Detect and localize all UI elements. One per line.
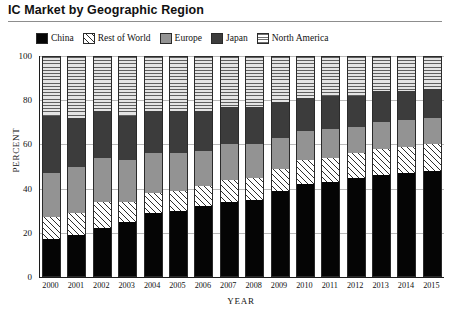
bar-column[interactable] [271,56,290,277]
bar-column[interactable] [169,56,188,277]
x-axis-tick: 2006 [193,280,212,292]
bar-segment [423,118,442,145]
x-axis-title: YEAR [39,296,443,306]
bar-segment [169,153,188,191]
x-axis-tick: 2000 [41,280,60,292]
bar-segment [397,173,416,277]
x-axis-tick: 2007 [219,280,238,292]
legend-item-label: Rest of World [98,33,151,44]
legend-item: Rest of World [83,33,151,44]
bar-column[interactable] [245,56,264,277]
bar-segment [397,147,416,174]
legend-item-label: Japan [226,33,248,44]
bar-segment [423,56,442,89]
bar-segment [321,158,340,182]
title-divider [8,21,442,22]
bar-segment [423,144,442,171]
x-axis-tick: 2002 [92,280,111,292]
x-axis-tick: 2004 [143,280,162,292]
bar-column[interactable] [423,56,442,277]
bar-segment [144,56,163,111]
bar-segment [93,56,112,111]
legend-item-label: North America [272,33,329,44]
bar-segment [397,91,416,120]
legend-item: China [36,33,74,44]
bar-column[interactable] [397,56,416,277]
bar-segment [93,202,112,229]
bar-segment [372,122,391,149]
bar-segment [194,56,213,111]
bar-column[interactable] [144,56,163,277]
bar-segment [347,56,366,96]
bar-column[interactable] [347,56,366,277]
y-axis-tick: 40 [23,184,32,193]
legend-item-label: China [51,33,74,44]
x-axis-tick-labels: 2000200120022003200420052006200720082009… [39,280,443,292]
bar-segment [271,138,290,169]
plot-area [39,56,444,278]
bar-segment [397,120,416,147]
bar-segment [144,193,163,213]
bar-segment [220,202,239,277]
legend-item: Europe [160,33,202,44]
bar-column[interactable] [372,56,391,277]
bar-segment [93,228,112,277]
bar-segment [220,144,239,179]
bar-column[interactable] [321,56,340,277]
chart-legend: ChinaRest of WorldEuropeJapanNorth Ameri… [36,31,328,45]
bar-segment [271,102,290,137]
bar-segment [169,111,188,153]
y-axis-tick: 20 [23,228,32,237]
x-axis-tick: 2012 [346,280,365,292]
x-axis-tick: 2008 [244,280,263,292]
bar-segment [118,222,137,277]
bar-segment [321,56,340,96]
bar-segment [194,151,213,186]
bar-segment [220,107,239,145]
x-axis-tick: 2014 [396,280,415,292]
bar-segment [347,178,366,277]
page-title: IC Market by Geographic Region [8,2,443,18]
diagonal-hatch-swatch [83,33,95,44]
bar-segment [67,56,86,118]
medium-gray-swatch [160,33,172,44]
bar-segment [144,111,163,153]
bar-segment [245,144,264,177]
bar-segment [67,213,86,235]
bar-column[interactable] [67,56,86,277]
bar-column[interactable] [296,56,315,277]
bar-column[interactable] [194,56,213,277]
x-axis-tick: 2005 [168,280,187,292]
bar-segment [245,200,264,277]
bar-column[interactable] [42,56,61,277]
bar-segment [42,239,61,277]
legend-item-label: Europe [175,33,202,44]
bar-segment [118,160,137,202]
solid-black-swatch [36,33,48,44]
bar-segment [271,56,290,102]
bar-segment [169,211,188,277]
bar-segment [296,131,315,160]
bar-column[interactable] [93,56,112,277]
bar-segment [321,182,340,277]
bar-segment [67,118,86,167]
bar-segment [372,149,391,176]
bar-column[interactable] [220,56,239,277]
x-axis-tick: 2009 [270,280,289,292]
bar-segment [42,217,61,239]
bar-segment [67,235,86,277]
bar-segment [93,111,112,157]
bars-container [40,56,444,277]
bar-segment [42,116,61,173]
bar-segment [67,167,86,213]
bar-column[interactable] [118,56,137,277]
bar-segment [347,127,366,154]
dark-gray-swatch [211,33,223,44]
bar-segment [169,191,188,211]
bar-segment [423,89,442,118]
bar-segment [118,202,137,222]
bar-segment [372,175,391,277]
y-axis-tick: 60 [23,140,32,149]
bar-segment [144,213,163,277]
bar-segment [296,184,315,277]
